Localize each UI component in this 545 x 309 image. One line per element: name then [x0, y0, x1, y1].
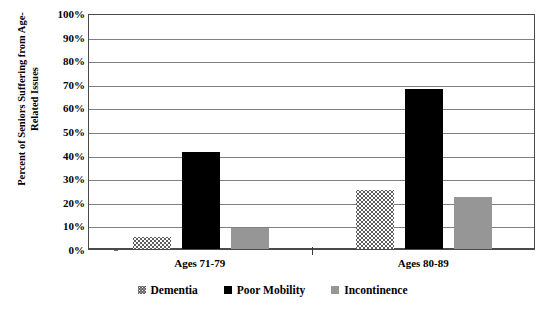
y-tick-label: 10% — [30, 221, 85, 231]
gridline — [89, 109, 534, 110]
y-tick-label: 100% — [30, 9, 85, 19]
legend-item-incontinence[interactable]: Incontinence — [331, 284, 407, 296]
x-axis-label-1: Ages 80-89 — [333, 257, 513, 269]
gridline — [89, 157, 534, 158]
legend-label: Poor Mobility — [237, 284, 305, 296]
y-tick-label: 20% — [30, 198, 85, 208]
bar-incontinence-ages-80-89 — [454, 197, 492, 249]
legend-swatch-poor-mobility — [224, 286, 232, 294]
y-tick-label: 90% — [30, 33, 85, 43]
y-tick-label: 80% — [30, 56, 85, 66]
legend-label: Incontinence — [344, 284, 407, 296]
y-tick-label: 0% — [30, 245, 85, 255]
gridline — [89, 180, 534, 181]
bar-incontinence-ages-71-79 — [231, 228, 269, 249]
y-tick-label: 40% — [30, 151, 85, 161]
gridline — [89, 39, 534, 40]
y-tick-label: 60% — [30, 103, 85, 113]
bar-poor-mobility-ages-80-89 — [405, 89, 443, 249]
plot-area — [88, 14, 535, 250]
gridline — [89, 62, 534, 63]
gridline — [89, 86, 534, 87]
legend-item-dementia[interactable]: Dementia — [138, 284, 198, 296]
y-axis-ticks: 100%90%80%70%60%50%40%30%20%10%0% — [30, 0, 85, 309]
y-tick-label: 70% — [30, 80, 85, 90]
legend-swatch-dementia — [138, 286, 146, 294]
y-tick-label: 50% — [30, 127, 85, 137]
bar-dementia-ages-71-79 — [133, 237, 171, 249]
x-axis-label-0: Ages 71-79 — [110, 257, 290, 269]
chart-legend: DementiaPoor MobilityIncontinence — [0, 284, 545, 296]
legend-label: Dementia — [151, 284, 198, 296]
bar-dementia-ages-80-89 — [356, 190, 394, 249]
bar-chart: Percent of Seniors Suffering from Age-Re… — [0, 0, 545, 309]
legend-item-poor-mobility[interactable]: Poor Mobility — [224, 284, 305, 296]
legend-swatch-incontinence — [331, 286, 339, 294]
y-tick-label: 30% — [30, 174, 85, 184]
gridline — [89, 133, 534, 134]
category-divider-tick — [312, 247, 313, 255]
y-tick-mark — [114, 250, 118, 251]
bar-poor-mobility-ages-71-79 — [182, 152, 220, 249]
